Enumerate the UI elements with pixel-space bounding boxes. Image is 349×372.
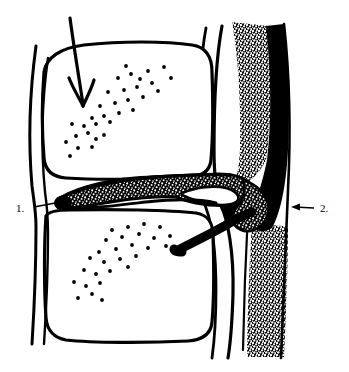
- upper-vertebral-body: [43, 42, 213, 179]
- nerve-root-tip: [174, 249, 182, 252]
- callout-1-label: 1.: [16, 202, 25, 214]
- callout-2-label: 2.: [320, 202, 329, 214]
- herniated-disc-figure: 1. 2.: [0, 0, 349, 372]
- lower-vertebral-body: [45, 210, 214, 343]
- anatomy-illustration: 1. 2.: [0, 0, 349, 372]
